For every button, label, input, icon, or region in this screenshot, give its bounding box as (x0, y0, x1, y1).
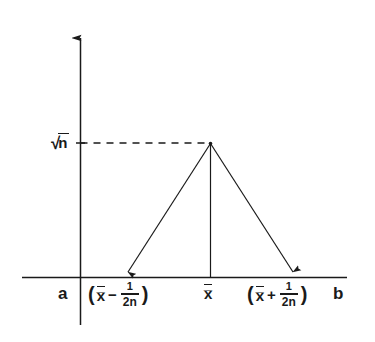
x-axis-label-upper-bound: ( x̅ + 1 2n ) (247, 281, 307, 308)
left-xbar-symbol: x̅ (97, 286, 105, 303)
x-axis-label-a: a (58, 285, 67, 302)
upper-bound-expression: ( x̅ + 1 2n ) (247, 281, 307, 308)
left-fraction-denominator: 2n (121, 295, 139, 308)
y-axis-label-sqrt-n: √n (51, 131, 69, 152)
right-fraction-denominator: 2n (280, 295, 298, 308)
lower-bound-expression: ( x̅ − 1 2n ) (88, 281, 148, 308)
x-axis-label-lower-bound: ( x̅ − 1 2n ) (88, 281, 148, 308)
x-axis-label-b: b (333, 285, 343, 302)
left-paren-close: ) (142, 284, 149, 304)
right-xbar-symbol: x̅ (256, 286, 264, 303)
left-paren-open: ( (88, 284, 95, 304)
triangle-left-side (128, 144, 211, 273)
triangle-right-side (211, 144, 294, 273)
figure-container: √n a b x̅ ( x̅ − 1 2n ) ( x̅ + 1 (0, 0, 375, 342)
xbar-symbol: x̅ (204, 284, 212, 301)
triangle-apex-point (209, 142, 213, 146)
right-fraction-numerator: 1 (283, 281, 295, 293)
minus-operator: − (107, 287, 118, 302)
left-fraction-numerator: 1 (124, 281, 136, 293)
right-paren-close: ) (301, 284, 308, 304)
radical-symbol-group: √n (51, 131, 69, 152)
plot-canvas (0, 0, 375, 342)
right-paren-open: ( (247, 284, 254, 304)
plus-operator: + (266, 287, 277, 302)
left-fraction: 1 2n (121, 281, 139, 308)
x-axis-label-xbar-center: x̅ (204, 284, 212, 302)
right-fraction: 1 2n (280, 281, 298, 308)
radicand-n: n (58, 133, 68, 150)
